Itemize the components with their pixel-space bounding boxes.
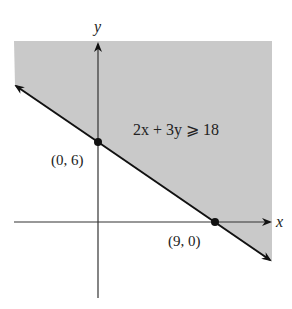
point-label-0-6: (0, 6): [51, 152, 84, 169]
x-axis-label: x: [275, 213, 283, 230]
y-axis-label: y: [92, 18, 102, 36]
inequality-label: 2x + 3y ⩾ 18: [133, 121, 219, 139]
point-9-0: [211, 218, 219, 226]
inequality-graph: y x 2x + 3y ⩾ 18 (0, 6) (9, 0): [0, 0, 292, 309]
point-label-9-0: (9, 0): [168, 233, 201, 250]
point-0-6: [94, 138, 102, 146]
